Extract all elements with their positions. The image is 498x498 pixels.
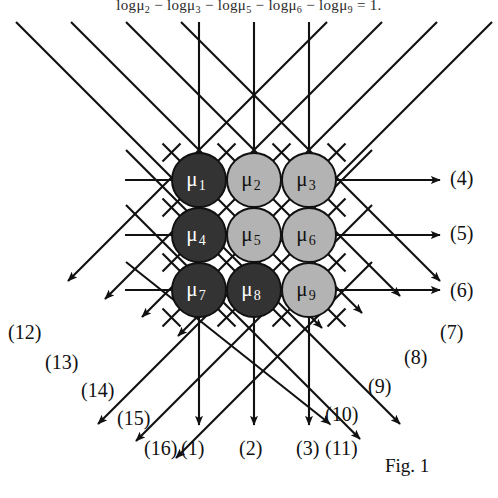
node-label-subscript-mu2: 2 xyxy=(254,178,261,193)
node-label-subscript-mu8: 8 xyxy=(254,288,261,303)
port-label-p11: (11) xyxy=(325,438,358,458)
node-label-subscript-mu5: 5 xyxy=(254,233,261,248)
figure-caption: Fig. 1 xyxy=(385,455,429,477)
node-mu3[interactable]: μ3 xyxy=(282,153,336,207)
port-label-p9: (9) xyxy=(368,376,391,396)
port-label-p5: (5) xyxy=(450,223,473,243)
node-mu4[interactable]: μ4 xyxy=(172,208,226,262)
node-label-subscript-mu6: 6 xyxy=(309,233,316,248)
port-label-p4: (4) xyxy=(450,168,473,188)
port-label-p14: (14) xyxy=(81,380,114,400)
port-label-p13: (13) xyxy=(45,352,78,372)
port-label-p12: (12) xyxy=(8,322,41,342)
port-label-p2: (2) xyxy=(239,438,262,458)
port-label-p16: (16) xyxy=(144,438,177,458)
node-mu6[interactable]: μ6 xyxy=(282,208,336,262)
figure-1-container: logμ2 − logμ3 − logμ5 − logμ6 − logμ9 = … xyxy=(0,0,498,498)
node-label-subscript-mu3: 3 xyxy=(309,178,316,193)
node-circles-layer: μ1μ2μ3μ4μ5μ6μ7μ8μ9 xyxy=(172,153,336,317)
switching-network-diagram: μ1μ2μ3μ4μ5μ6μ7μ8μ9 xyxy=(0,0,498,498)
port-label-p6: (6) xyxy=(450,280,473,300)
port-label-p7: (7) xyxy=(440,322,463,342)
port-label-p3: (3) xyxy=(296,438,319,458)
port-label-p10: (10) xyxy=(325,404,358,424)
node-label-subscript-mu4: 4 xyxy=(199,233,206,248)
node-mu5[interactable]: μ5 xyxy=(227,208,281,262)
port-label-p15: (15) xyxy=(117,408,150,428)
node-mu1[interactable]: μ1 xyxy=(172,153,226,207)
port-label-p8: (8) xyxy=(404,347,427,367)
node-label-subscript-mu7: 7 xyxy=(199,288,206,303)
port-label-p1: (1) xyxy=(181,438,204,458)
node-mu2[interactable]: μ2 xyxy=(227,153,281,207)
node-label-subscript-mu9: 9 xyxy=(309,288,316,303)
node-mu9[interactable]: μ9 xyxy=(282,263,336,317)
node-label-subscript-mu1: 1 xyxy=(199,178,206,193)
node-mu7[interactable]: μ7 xyxy=(172,263,226,317)
node-mu8[interactable]: μ8 xyxy=(227,263,281,317)
